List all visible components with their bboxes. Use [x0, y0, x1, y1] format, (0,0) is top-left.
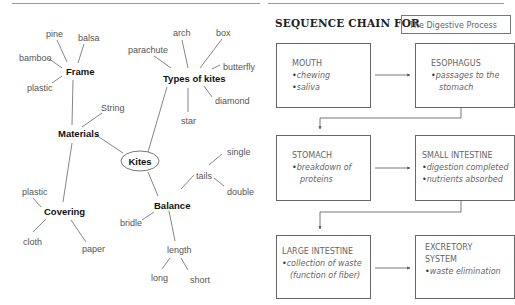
leaf-long: long: [151, 273, 168, 283]
leaf-double: double: [227, 187, 254, 197]
leaf-star: star: [181, 116, 196, 126]
arrow-small-to-large-intestine: [320, 201, 461, 229]
node-types-of-kites: Types of kites: [163, 73, 226, 84]
leaf-arch: arch: [173, 28, 191, 38]
step-box-small-intestine: SMALL INTESTINE digestion completed nutr…: [415, 135, 515, 201]
leaf-short: short: [190, 275, 211, 285]
leaf-parachute: parachute: [128, 45, 168, 55]
leaf-string: String: [101, 103, 125, 113]
sequence-chain-title: SEQUENCE CHAIN FOR: [275, 17, 420, 29]
step-heading: EXCRETORY: [425, 242, 514, 254]
step-heading: LARGE INTESTINE: [282, 246, 370, 258]
leaf-length: length: [167, 245, 192, 255]
leaf-bridle: bridle: [120, 218, 142, 228]
node-kites: Kites: [128, 156, 151, 167]
leaf-balsa: balsa: [78, 33, 100, 43]
leaf-cloth: cloth: [23, 237, 42, 247]
step-bullet: saliva: [292, 82, 370, 94]
node-materials: Materials: [58, 128, 99, 139]
kites-mind-map: Kites Frame pine balsa bamboo plastic St…: [0, 0, 265, 305]
leaf-pine: pine: [46, 29, 63, 39]
step-box-large-intestine: LARGE INTESTINE collection of waste (fun…: [276, 235, 371, 299]
step-bullet: waste elimination: [425, 266, 514, 278]
leaf-plastic-frame: plastic: [27, 83, 53, 93]
step-heading: ESOPHAGUS: [431, 58, 514, 70]
leaf-paper: paper: [82, 244, 105, 254]
step-bullet: nutrients absorbed: [422, 174, 514, 186]
step-heading: STOMACH: [292, 150, 370, 162]
node-balance: Balance: [154, 200, 190, 211]
right-divider-line: [268, 3, 504, 4]
leaf-diamond: diamond: [215, 96, 250, 106]
node-covering: Covering: [44, 206, 85, 217]
step-heading-line2: SYSTEM: [425, 254, 514, 266]
arrow-esophagus-to-stomach: [320, 108, 461, 129]
node-frame: Frame: [66, 66, 95, 77]
step-bullet: collection of waste (function of fiber): [282, 258, 374, 282]
step-bullet: chewing: [292, 70, 370, 82]
step-box-mouth: MOUTH chewing saliva: [276, 43, 371, 108]
step-heading: SMALL INTESTINE: [422, 150, 514, 162]
leaf-plastic-covering: plastic: [22, 187, 48, 197]
leaf-single: single: [227, 147, 251, 157]
step-bullet: passages to the stomach: [431, 70, 501, 94]
leaf-tails: tails: [196, 171, 213, 181]
leaf-butterfly: butterfly: [223, 62, 256, 72]
step-heading: MOUTH: [292, 58, 370, 70]
step-box-excretory-system: EXCRETORY SYSTEM waste elimination: [415, 235, 515, 299]
step-box-esophagus: ESOPHAGUS passages to the stomach: [415, 43, 515, 108]
step-bullet: digestion completed: [422, 162, 514, 174]
step-box-stomach: STOMACH breakdown of proteins: [276, 135, 371, 201]
step-bullet: breakdown of proteins: [292, 162, 362, 186]
leaf-box: box: [216, 28, 231, 38]
leaf-bamboo: bamboo: [19, 53, 52, 63]
topic-field: The Digestive Process: [401, 15, 511, 34]
